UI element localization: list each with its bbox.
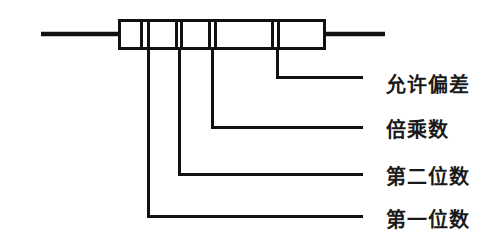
callout-label-first-digit: 第一位数 [386, 210, 470, 230]
diagram-canvas: 允许偏差 倍乘数 第二位数 第一位数 [0, 0, 493, 247]
callout-label-multiplier: 倍乘数 [386, 120, 449, 140]
callout-leader-lines [149, 48, 364, 217]
leader-line-multiplier [213, 48, 364, 128]
leader-line-second-digit [180, 48, 364, 175]
resistor-body-outline [120, 21, 325, 49]
callout-label-tolerance: 允许偏差 [386, 75, 470, 95]
leader-line-tolerance [278, 48, 364, 78]
callout-label-second-digit: 第二位数 [386, 167, 470, 187]
